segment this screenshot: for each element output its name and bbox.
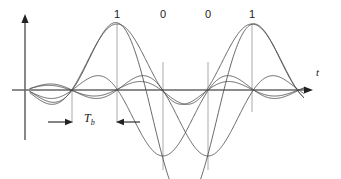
curve-pulse-4 [30, 24, 304, 104]
vertical-axis [21, 14, 28, 140]
curve-pulse-2 [30, 76, 304, 156]
vertical-axis-arrowhead [21, 14, 28, 23]
bit-period-label: Tb [84, 111, 95, 127]
time-axis-label: t [316, 66, 319, 78]
pulse-shaping-diagram [0, 0, 341, 179]
bit-label-3: 0 [201, 8, 215, 20]
bit-label-4: 1 [245, 8, 259, 20]
bit-label-1: 1 [110, 8, 124, 20]
curve-pulse-3 [30, 76, 304, 156]
curve-pulse-1 [30, 24, 304, 104]
gridlines [72, 24, 252, 170]
pulse-curves [30, 23, 304, 179]
bit-label-2: 0 [156, 8, 170, 20]
bit-period-label-sub: b [91, 118, 95, 127]
bit-period-label-main: T [84, 111, 91, 125]
time-axis-arrowhead [304, 86, 313, 93]
